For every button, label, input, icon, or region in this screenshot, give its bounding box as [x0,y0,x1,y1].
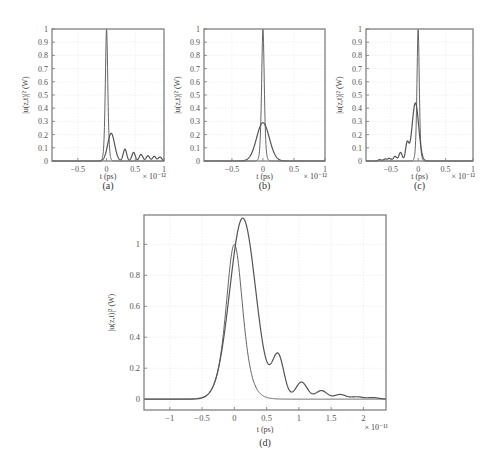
series-line-output-pulse [204,123,325,161]
y-tick-label: 0.2 [352,131,362,140]
x-tick-label: −0.5 [71,165,86,174]
y-tick-label: 0.7 [38,65,48,74]
chart-panel-a: −0.500.5100.10.20.30.40.50.60.70.80.91t … [21,25,167,192]
y-tick-label: 1 [358,25,362,34]
y-tick-label: 0.4 [190,104,200,113]
y-tick-label: 1 [44,25,48,34]
y-tick-label: 0.6 [38,78,48,87]
y-tick-label: 0 [136,394,140,404]
y-tick-label: 0.5 [190,91,200,100]
figure: −0.500.5100.10.20.30.40.50.60.70.80.91t … [0,0,497,475]
y-tick-label: 0.8 [129,270,140,280]
y-tick-label: 0.3 [190,117,200,126]
y-tick-label: 0.1 [190,144,200,153]
y-tick-label: 0.2 [38,131,48,140]
y-tick-label: 0.4 [38,104,48,113]
y-tick-label: 0.8 [38,51,48,60]
y-tick-label: 0 [358,157,362,166]
x-tick-label: 0.5 [130,165,140,174]
y-tick-label: 0.6 [352,78,362,87]
y-tick-label: 0.8 [352,51,362,60]
x-tick-label: 0.5 [441,165,451,174]
y-tick-label: 1 [196,25,200,34]
y-tick-label: 0.2 [129,363,140,373]
y-tick-label: 0.9 [38,38,48,47]
series-line-output-pulse [52,133,164,161]
x-tick-label: 0.5 [289,165,299,174]
y-tick-label: 0 [44,157,48,166]
y-tick-label: 0.1 [38,144,48,153]
y-tick-label: 0.7 [190,65,200,74]
x-tick-label: −0.5 [383,165,398,174]
x-axis-multiplier: × 10⁻¹¹ [364,423,388,432]
chart-panel-d: −1−0.500.511.5200.20.40.60.81t (ps)× 10⁻… [107,215,389,449]
panel-caption: (d) [259,437,271,449]
x-tick-label: 0 [232,413,236,423]
x-axis-label: t (ps) [257,425,274,434]
y-axis-label: |u(z,t)|² (W) [335,76,344,114]
x-tick-label: 1.5 [326,413,337,423]
chart-panel-b: −0.500.5100.10.20.30.40.50.60.70.80.91t … [173,25,328,192]
y-tick-label: 0.2 [190,131,200,140]
x-axis-multiplier: × 10⁻¹² [451,172,475,181]
y-tick-label: 0.5 [352,91,362,100]
y-axis-label: |u(z,t)|² (W) [173,76,182,114]
x-tick-label: 0.5 [261,413,272,423]
y-tick-label: 0.4 [352,104,362,113]
x-tick-label: 2 [361,413,365,423]
y-tick-label: 0.5 [38,91,48,100]
y-tick-label: 0.1 [352,144,362,153]
y-tick-label: 1 [136,239,140,249]
y-tick-label: 0.4 [129,332,140,342]
y-tick-label: 0.3 [38,117,48,126]
x-tick-label: 1 [297,413,301,423]
panel-caption: (b) [259,180,271,192]
x-tick-label: −0.5 [225,165,240,174]
x-tick-label: −0.5 [194,413,209,423]
x-axis-multiplier: × 10⁻¹² [142,172,166,181]
series-line-input-pulse [144,244,386,399]
y-tick-label: 0.7 [352,65,362,74]
y-tick-label: 0.6 [129,301,140,311]
x-axis-multiplier: × 10⁻¹² [303,172,327,181]
y-axis-label: |u(z,t)|² (W) [21,76,30,114]
y-tick-label: 0.9 [352,38,362,47]
panel-caption: (a) [102,180,113,192]
panel-caption: (c) [414,180,425,192]
chart-panel-c: −0.500.5100.10.20.30.40.50.60.70.80.91t … [335,25,476,192]
y-tick-label: 0.6 [190,78,200,87]
y-tick-label: 0.9 [190,38,200,47]
y-tick-label: 0.8 [190,51,200,60]
y-axis-label: |u(z,t)|² (W) [107,293,116,331]
x-tick-label: −1 [165,413,174,423]
y-tick-label: 0 [196,157,200,166]
y-tick-label: 0.3 [352,117,362,126]
series-line-output-pulse [144,218,386,399]
